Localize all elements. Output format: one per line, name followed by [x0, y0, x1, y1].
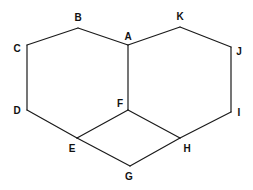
line-diagram-figure: ABCDEFGHIJK: [0, 0, 253, 190]
vertex-label-c: C: [13, 44, 20, 54]
bond-edge-g-h: [130, 138, 180, 166]
bond-edge-a-k: [128, 27, 180, 45]
vertex-label-f: F: [117, 99, 123, 109]
vertex-label-i: I: [238, 108, 241, 118]
vertex-label-j: J: [236, 47, 242, 57]
bond-edge-d-e: [27, 110, 77, 138]
bond-edge-k-j: [180, 27, 231, 47]
bond-edge-a-b: [78, 28, 128, 45]
vertex-label-e: E: [69, 144, 76, 154]
bond-edge-e-f: [77, 110, 128, 138]
bond-edge-i-h: [180, 112, 231, 138]
vertex-label-d: D: [13, 106, 20, 116]
bond-edge-h-f: [128, 110, 180, 138]
diagram-canvas: [0, 0, 253, 190]
vertex-label-a: A: [124, 32, 131, 42]
vertex-label-b: B: [74, 13, 81, 23]
bond-edge-e-g: [77, 138, 130, 166]
bond-edges: [27, 27, 231, 166]
vertex-label-k: K: [176, 12, 183, 22]
vertex-label-g: G: [125, 172, 133, 182]
vertex-label-h: H: [183, 144, 190, 154]
bond-edge-b-c: [27, 28, 78, 45]
